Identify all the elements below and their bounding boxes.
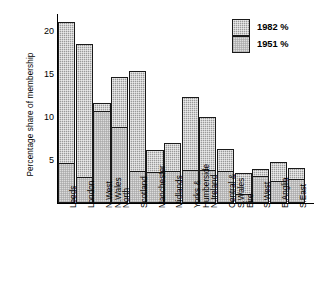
chart-legend: 1982 %1951 %: [232, 19, 322, 53]
bar-segment-1982[interactable]: [129, 71, 146, 172]
y-axis-tick-label: 10: [32, 112, 54, 122]
x-axis-label: Midlands: [176, 175, 185, 208]
bar-segment-1982[interactable]: [252, 169, 269, 177]
chart-figure: Percentage share of membership 5101520 L…: [0, 0, 326, 287]
x-axis-label: Central & S.Wales: [229, 174, 246, 208]
legend-swatch-1982: [232, 19, 250, 36]
y-axis-tick-label: 20: [32, 26, 54, 36]
x-axis-label: S.East: [300, 184, 309, 208]
x-axis-label: Eire: [247, 193, 256, 208]
y-axis-tick-label: 5: [32, 155, 54, 165]
bar-segment-1982[interactable]: [93, 103, 110, 112]
x-axis-label: E.Anglia: [282, 178, 291, 209]
x-axis-label: N.Ireland: [211, 175, 220, 208]
bar-segment-1982[interactable]: [58, 22, 75, 164]
x-axis-label: Yorks & Humberside: [194, 164, 211, 208]
x-axis-label: London: [88, 181, 97, 208]
bar-segment-1982[interactable]: [111, 77, 128, 129]
x-axis-label: S.West: [264, 182, 273, 208]
bar-group[interactable]: [58, 22, 75, 203]
legend-label: 1951 %: [257, 39, 289, 49]
x-axis-label: Scotland: [141, 176, 150, 208]
bar-segment-1982[interactable]: [182, 97, 199, 171]
bar-segment-1982[interactable]: [76, 44, 93, 178]
bar-group[interactable]: [76, 44, 93, 203]
legend-item: 1982 %: [232, 19, 322, 36]
x-axis-label: North: [123, 188, 132, 208]
bar-segment-1982[interactable]: [217, 149, 234, 172]
x-axis-label: Leeds: [70, 186, 79, 208]
legend-item: 1951 %: [232, 36, 322, 53]
legend-label: 1982 %: [257, 22, 289, 32]
x-axis-label: N.West N.Wales: [106, 177, 123, 208]
x-axis-label: Manchester: [159, 165, 168, 208]
legend-swatch-1951: [232, 36, 250, 53]
y-axis-tick-label: 15: [32, 69, 54, 79]
